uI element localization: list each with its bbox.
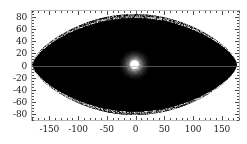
x-minor-tick-top bbox=[199, 11, 200, 13]
x-minor-tick-top bbox=[67, 11, 68, 13]
x-major-tick-top bbox=[164, 11, 165, 15]
sky-density-heatmap bbox=[32, 11, 239, 120]
y-minor-tick bbox=[32, 117, 34, 118]
y-tick-label: -80 bbox=[0, 109, 27, 119]
x-minor-tick bbox=[130, 118, 131, 120]
y-minor-tick bbox=[32, 96, 34, 97]
y-tick-label: -40 bbox=[0, 85, 27, 95]
y-minor-tick bbox=[32, 120, 34, 121]
y-major-tick-right bbox=[235, 17, 239, 18]
y-tick-label: 60 bbox=[0, 24, 27, 34]
x-minor-tick bbox=[118, 118, 119, 120]
x-minor-tick bbox=[228, 118, 229, 120]
plot-area bbox=[31, 10, 240, 121]
y-tick-label: 20 bbox=[0, 48, 27, 58]
y-minor-tick-right bbox=[237, 87, 239, 88]
x-minor-tick bbox=[182, 118, 183, 120]
x-minor-tick-top bbox=[205, 11, 206, 13]
x-minor-tick bbox=[239, 118, 240, 120]
y-minor-tick-right bbox=[237, 69, 239, 70]
x-minor-tick bbox=[233, 118, 234, 120]
y-minor-tick bbox=[32, 81, 34, 82]
y-minor-tick-right bbox=[237, 38, 239, 39]
x-minor-tick-top bbox=[233, 11, 234, 13]
y-minor-tick bbox=[32, 111, 34, 112]
x-major-tick-top bbox=[222, 11, 223, 15]
x-major-tick-top bbox=[78, 11, 79, 15]
x-minor-tick bbox=[187, 118, 188, 120]
x-minor-tick-top bbox=[44, 11, 45, 13]
y-minor-tick bbox=[32, 84, 34, 85]
x-minor-tick-top bbox=[239, 11, 240, 13]
y-minor-tick-right bbox=[237, 14, 239, 15]
y-minor-tick bbox=[32, 14, 34, 15]
x-minor-tick-top bbox=[101, 11, 102, 13]
x-major-tick-top bbox=[193, 11, 194, 15]
x-minor-tick-top bbox=[72, 11, 73, 13]
x-tick-label: 50 bbox=[159, 124, 170, 134]
x-minor-tick bbox=[95, 118, 96, 120]
y-minor-tick-right bbox=[237, 11, 239, 12]
y-minor-tick bbox=[32, 72, 34, 73]
y-minor-tick-right bbox=[237, 81, 239, 82]
x-minor-tick bbox=[205, 118, 206, 120]
x-major-tick bbox=[49, 116, 50, 120]
y-minor-tick bbox=[32, 35, 34, 36]
x-minor-tick-top bbox=[124, 11, 125, 13]
x-minor-tick-top bbox=[182, 11, 183, 13]
x-major-tick-top bbox=[107, 11, 108, 15]
y-major-tick bbox=[32, 17, 36, 18]
y-minor-tick bbox=[32, 75, 34, 76]
x-minor-tick bbox=[141, 118, 142, 120]
x-minor-tick-top bbox=[95, 11, 96, 13]
x-major-tick-top bbox=[49, 11, 50, 15]
y-minor-tick-right bbox=[237, 56, 239, 57]
y-major-tick-right bbox=[235, 29, 239, 30]
x-minor-tick bbox=[176, 118, 177, 120]
y-minor-tick bbox=[32, 56, 34, 57]
x-minor-tick-top bbox=[187, 11, 188, 13]
x-tick-label: -100 bbox=[68, 124, 87, 134]
x-minor-tick-top bbox=[153, 11, 154, 13]
y-major-tick-right bbox=[235, 114, 239, 115]
y-major-tick bbox=[32, 114, 36, 115]
y-minor-tick bbox=[32, 59, 34, 60]
x-minor-tick-top bbox=[176, 11, 177, 13]
x-minor-tick bbox=[61, 118, 62, 120]
y-minor-tick-right bbox=[237, 23, 239, 24]
x-minor-tick-top bbox=[113, 11, 114, 13]
x-minor-tick bbox=[199, 118, 200, 120]
x-major-tick bbox=[136, 116, 137, 120]
y-minor-tick bbox=[32, 93, 34, 94]
x-minor-tick-top bbox=[55, 11, 56, 13]
x-tick-label: -50 bbox=[100, 124, 114, 134]
y-minor-tick bbox=[32, 44, 34, 45]
x-minor-tick-top bbox=[159, 11, 160, 13]
x-tick-label: 100 bbox=[185, 124, 202, 134]
x-minor-tick bbox=[113, 118, 114, 120]
x-major-tick bbox=[193, 116, 194, 120]
y-major-tick-right bbox=[235, 102, 239, 103]
x-major-tick bbox=[107, 116, 108, 120]
x-tick-label: 0 bbox=[133, 124, 139, 134]
x-minor-tick bbox=[101, 118, 102, 120]
y-minor-tick-right bbox=[237, 117, 239, 118]
x-minor-tick bbox=[153, 118, 154, 120]
x-minor-tick-top bbox=[210, 11, 211, 13]
figure-canvas: -150-100-50050100150-80-60-40-2002040608… bbox=[0, 0, 247, 144]
y-major-tick-right bbox=[235, 66, 239, 67]
y-minor-tick bbox=[32, 69, 34, 70]
y-tick-label: -20 bbox=[0, 73, 27, 83]
y-minor-tick-right bbox=[237, 20, 239, 21]
y-minor-tick bbox=[32, 62, 34, 63]
x-major-tick-top bbox=[136, 11, 137, 15]
x-minor-tick bbox=[67, 118, 68, 120]
y-minor-tick-right bbox=[237, 59, 239, 60]
y-minor-tick-right bbox=[237, 35, 239, 36]
y-major-tick-right bbox=[235, 53, 239, 54]
y-tick-label: 40 bbox=[0, 36, 27, 46]
y-minor-tick-right bbox=[237, 75, 239, 76]
x-minor-tick bbox=[84, 118, 85, 120]
x-minor-tick bbox=[159, 118, 160, 120]
x-minor-tick-top bbox=[84, 11, 85, 13]
